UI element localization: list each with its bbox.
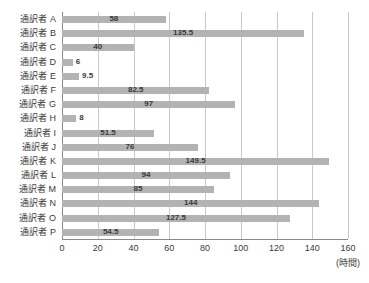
category-label: 通訳者 H [20,113,56,123]
x-tick-label: 120 [269,243,284,254]
bar-value-label: 58 [109,13,118,25]
bar-value-label: 40 [93,41,102,53]
chart-row: 通訳者 F82.5 [62,83,348,97]
plot-area: 通訳者 A58通訳者 B135.5通訳者 C40通訳者 D6通訳者 E9.5通訳… [62,12,348,239]
bar [62,73,79,80]
bar-value-label: 9.5 [82,70,93,82]
x-tick-label: 40 [128,243,138,254]
bar [62,115,76,122]
chart-row: 通訳者 M85 [62,182,348,196]
category-label: 通訳者 F [21,85,56,95]
chart-row: 通訳者 N144 [62,196,348,210]
category-label: 通訳者 K [20,156,56,166]
x-axis-line [62,239,348,240]
chart-row: 通訳者 O127.5 [62,211,348,225]
category-label: 通訳者 I [24,128,56,138]
bar-value-label: 8 [79,112,83,124]
bar-value-label: 97 [144,98,153,110]
category-label: 通訳者 M [19,184,56,194]
category-label: 通訳者 A [20,14,56,24]
x-axis-unit-label: (時間) [336,258,360,269]
bar-value-label: 54.5 [103,226,119,238]
category-label: 通訳者 E [20,71,56,81]
x-tick-label: 0 [59,243,64,254]
x-tick-label: 60 [164,243,174,254]
category-label: 通訳者 C [20,42,56,52]
bar-value-label: 149.5 [186,155,206,167]
chart-row: 通訳者 H8 [62,111,348,125]
x-tick-label: 80 [200,243,210,254]
chart-row: 通訳者 A58 [62,12,348,26]
category-label: 通訳者 L [21,170,56,180]
chart-row: 通訳者 J76 [62,140,348,154]
x-tick-label: 100 [233,243,248,254]
x-tick-label: 160 [340,243,355,254]
bar-value-label: 82.5 [128,84,144,96]
category-label: 通訳者 J [22,142,56,152]
bar-value-label: 144 [184,197,197,209]
bar-value-label: 94 [142,169,151,181]
bar-value-label: 135.5 [173,27,193,39]
chart-row: 通訳者 L94 [62,168,348,182]
category-label: 通訳者 O [19,213,56,223]
x-tick-label: 140 [305,243,320,254]
x-tick-label: 20 [93,243,103,254]
category-label: 通訳者 N [20,198,56,208]
bar-value-label: 6 [76,56,80,68]
category-label: 通訳者 G [19,99,56,109]
category-label: 通訳者 D [20,57,56,67]
chart-row: 通訳者 K149.5 [62,154,348,168]
bar-value-label: 76 [125,141,134,153]
chart-row: 通訳者 G97 [62,97,348,111]
chart-row: 通訳者 C40 [62,40,348,54]
gridline-160 [348,12,349,239]
bar [62,59,73,66]
category-label: 通訳者 B [20,28,56,38]
bar-chart: 通訳者 A58通訳者 B135.5通訳者 C40通訳者 D6通訳者 E9.5通訳… [0,0,369,283]
chart-row: 通訳者 E9.5 [62,69,348,83]
chart-row: 通訳者 B135.5 [62,26,348,40]
bar-value-label: 51.5 [100,127,116,139]
chart-row: 通訳者 D6 [62,55,348,69]
bar-value-label: 85 [134,183,143,195]
chart-row: 通訳者 I51.5 [62,126,348,140]
bar-value-label: 127.5 [166,212,186,224]
category-label: 通訳者 P [20,227,56,237]
bars-layer: 通訳者 A58通訳者 B135.5通訳者 C40通訳者 D6通訳者 E9.5通訳… [62,12,348,239]
chart-row: 通訳者 P54.5 [62,225,348,239]
